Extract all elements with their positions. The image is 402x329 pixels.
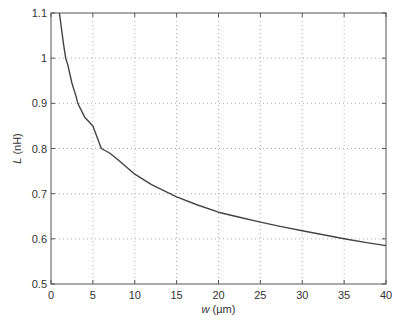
y-tick-label: 0.7 [32,188,47,200]
x-axis-ticks: 0510152025303540 [48,13,392,301]
y-tick-label: 0.5 [32,278,47,290]
x-tick-label: 25 [254,289,266,301]
y-tick-label: 1.1 [32,7,47,19]
x-tick-label: 40 [380,289,392,301]
data-line [59,13,386,246]
y-tick-label: 0.9 [32,97,47,109]
x-tick-label: 30 [296,289,308,301]
x-tick-label: 20 [212,289,224,301]
x-tick-label: 5 [90,289,96,301]
y-tick-label: 1 [41,52,47,64]
y-axis-unit: (nH) [11,133,23,157]
x-tick-label: 10 [129,289,141,301]
x-axis-label: w (µm) [202,303,236,315]
y-axis-ticks: 0.50.60.70.80.911.1 [32,7,386,290]
inductance-vs-width-chart: 0510152025303540 0.50.60.70.80.911.1 w (… [0,0,402,329]
x-tick-label: 0 [48,289,54,301]
y-tick-label: 0.6 [32,233,47,245]
y-axis-label: L (nH) [11,133,23,164]
x-tick-label: 15 [171,289,183,301]
y-tick-label: 0.8 [32,143,47,155]
x-tick-label: 35 [338,289,350,301]
x-axis-unit: (µm) [210,303,236,315]
